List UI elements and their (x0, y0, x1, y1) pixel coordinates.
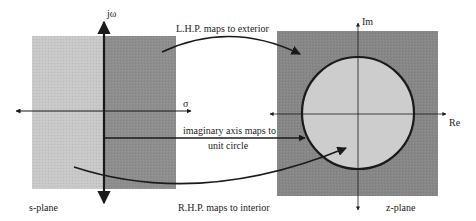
rhp-mapping-label: R.H.P. maps to interior (178, 202, 270, 213)
imaginary-axis-mapping-label-line2: unit circle (208, 140, 249, 151)
s-plane: jω σ s-plane (16, 8, 191, 213)
z-plane-label: z-plane (386, 202, 416, 213)
z-plane: Im Re z-plane (270, 16, 461, 213)
s-to-z-plane-mapping-diagram: jω σ s-plane Im Re z-plane L.H.P. maps t… (0, 0, 476, 221)
im-axis-label: Im (362, 16, 373, 27)
imaginary-axis-mapping-label-line1: imaginary axis maps to (183, 125, 276, 136)
s-plane-label: s-plane (29, 202, 58, 213)
re-axis-label: Re (449, 117, 461, 128)
sigma-axis-label: σ (183, 98, 189, 109)
jw-axis-label: jω (106, 8, 117, 19)
lhp-mapping-label: L.H.P. maps to exterior (176, 23, 269, 34)
